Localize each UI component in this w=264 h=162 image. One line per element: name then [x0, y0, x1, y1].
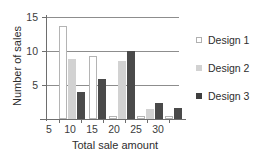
x-tick-label-20: 20	[104, 124, 124, 135]
x-tick-a	[59, 119, 60, 123]
plot-area	[47, 17, 179, 119]
y-tick-label-15: 15	[16, 12, 38, 22]
legend-label-design-1: Design 1	[208, 35, 249, 46]
bar-design1-15	[89, 56, 97, 119]
bar-design2-10	[68, 59, 76, 119]
bar-design3-10	[77, 92, 85, 119]
x-tick-f	[169, 119, 170, 123]
chart-legend: Design 1 Design 2 Design 3	[196, 34, 262, 118]
bar-design1-10	[59, 26, 67, 119]
x-tick-e	[147, 119, 148, 123]
y-axis-title: Number of sales	[11, 16, 23, 116]
bar-design3-25	[155, 103, 163, 119]
x-tick-label-25: 25	[126, 124, 146, 135]
legend-item-design-2: Design 2	[196, 62, 262, 74]
legend-label-design-3: Design 3	[208, 91, 249, 102]
bar-design2-25	[146, 109, 154, 119]
y-tick-label-10: 10	[16, 46, 38, 56]
legend-item-design-1: Design 1	[196, 34, 262, 46]
x-tick-d	[125, 119, 126, 123]
gridline-15	[47, 17, 179, 18]
bar-design3-15	[98, 79, 106, 119]
bar-chart-figure: Number of sales 15 10 5	[0, 0, 264, 162]
x-tick-label-5: 5	[39, 124, 59, 135]
legend-swatch-icon-design-3	[196, 93, 202, 99]
legend-swatch-icon-design-2	[196, 65, 202, 71]
bar-design3-20	[127, 51, 135, 119]
legend-item-design-3: Design 3	[196, 90, 262, 102]
bar-design2-20	[118, 61, 126, 119]
x-axis-title: Total sale amount	[40, 139, 190, 151]
x-tick-label-15: 15	[82, 124, 102, 135]
legend-swatch-icon-design-1	[196, 37, 202, 43]
x-tick-c	[103, 119, 104, 123]
x-tick-label-30: 30	[148, 124, 168, 135]
x-tick-b	[81, 119, 82, 123]
bar-design3-30	[174, 108, 182, 119]
x-tick-label-10: 10	[60, 124, 80, 135]
y-tick-label-5: 5	[16, 80, 38, 90]
legend-label-design-2: Design 2	[208, 63, 249, 74]
x-axis-line	[40, 119, 186, 120]
